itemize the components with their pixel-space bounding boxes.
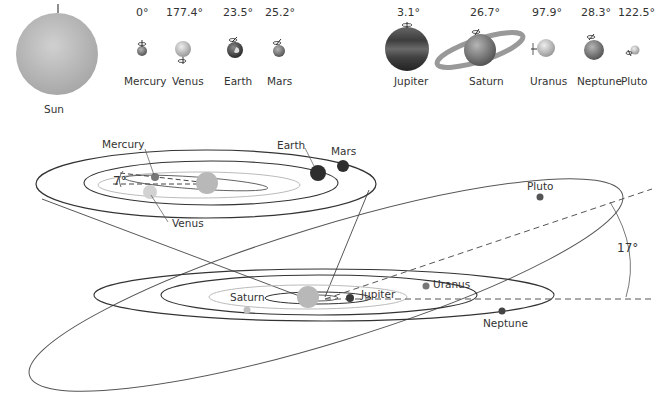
neptune-label: Neptune <box>577 76 622 87</box>
mercury-label: Mercury <box>124 76 167 87</box>
mercury-tilt: 0° <box>136 7 149 18</box>
mars-marker <box>337 160 349 172</box>
earth-icon <box>227 37 243 58</box>
venus-icon <box>175 41 191 64</box>
outer-jupiter-label: Jupiter <box>361 289 395 300</box>
mars-tilt: 25.2° <box>265 7 295 18</box>
mercury-inclination: 7° <box>113 175 127 187</box>
jupiter-label: Jupiter <box>394 76 428 87</box>
pluto-label: Pluto <box>621 76 647 87</box>
sun-icon <box>16 4 98 95</box>
saturn-tilt: 26.7° <box>470 7 500 18</box>
earth-marker <box>310 165 326 181</box>
pluto-icon <box>626 46 640 57</box>
outer-neptune-label: Neptune <box>483 318 528 329</box>
saturn-marker <box>244 307 251 314</box>
venus-marker <box>143 185 157 199</box>
inner-earth-label: Earth <box>277 140 305 151</box>
mercury-icon <box>137 40 147 56</box>
uranus-marker <box>423 283 430 290</box>
jupiter-icon <box>385 22 429 71</box>
mars-label: Mars <box>267 76 292 87</box>
uranus-icon <box>531 39 555 57</box>
saturn-label: Saturn <box>469 76 504 87</box>
sun-label: Sun <box>44 104 64 115</box>
jupiter-marker <box>346 294 354 302</box>
inner-mars-label: Mars <box>331 146 356 157</box>
jupiter-tilt: 3.1° <box>397 7 420 18</box>
venus-label: Venus <box>172 76 204 87</box>
pluto-inclination: 17° <box>617 242 638 254</box>
mercury-marker <box>151 173 159 181</box>
earth-tilt: 23.5° <box>223 7 253 18</box>
neptune-tilt: 28.3° <box>581 7 611 18</box>
inner-mercury-label: Mercury <box>102 139 145 150</box>
outer-uranus-label: Uranus <box>433 279 470 290</box>
uranus-label: Uranus <box>530 76 567 87</box>
pluto-tilt: 122.5° <box>618 7 655 18</box>
outer-saturn-label: Saturn <box>230 292 265 303</box>
neptune-marker <box>499 308 506 315</box>
saturn-icon <box>434 26 526 75</box>
outer-pluto-label: Pluto <box>527 181 553 192</box>
venus-tilt: 177.4° <box>166 7 203 18</box>
pluto-marker <box>537 194 544 201</box>
uranus-tilt: 97.9° <box>532 7 562 18</box>
inner-venus-label: Venus <box>172 218 204 229</box>
outer-orbits-group <box>13 139 652 415</box>
neptune-icon <box>584 34 604 60</box>
mars-icon <box>273 39 285 57</box>
earth-label: Earth <box>224 76 252 87</box>
